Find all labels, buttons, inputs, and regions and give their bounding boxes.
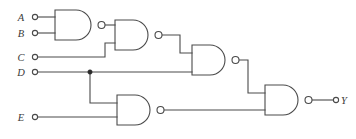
junction-dot-d: [88, 70, 92, 74]
input-terminal-group: [32, 14, 37, 119]
gate-g5-body: [265, 85, 298, 115]
circuit-canvas: A B C D E Y: [0, 0, 356, 139]
gate-g3-body: [192, 45, 225, 75]
gate-g5-inversion-bubble-icon: [305, 97, 312, 104]
input-label-c: C: [17, 52, 25, 63]
gate-g1-inversion-bubble-icon: [98, 22, 105, 29]
input-label-e: E: [17, 112, 25, 123]
wire-gate2-output: [162, 35, 192, 53]
input-label-d: D: [16, 67, 25, 78]
gate-g2-body: [115, 20, 148, 50]
gate-g4-inversion-bubble-icon: [157, 107, 164, 114]
label-group: A B C D E Y: [16, 12, 348, 123]
input-terminal-c[interactable]: [32, 54, 37, 59]
gate-g2-nand[interactable]: [115, 20, 162, 50]
logic-circuit-diagram: A B C D E Y: [0, 0, 356, 139]
wire-group: [38, 17, 334, 117]
gate-g5-nand[interactable]: [265, 85, 312, 115]
gate-g3-nand[interactable]: [192, 45, 239, 75]
gate-g4-body: [117, 95, 150, 125]
output-terminal-y[interactable]: [333, 97, 338, 102]
gate-g1-body: [55, 10, 91, 40]
input-terminal-d[interactable]: [32, 69, 37, 74]
input-label-b: B: [18, 28, 25, 39]
gate-g3-inversion-bubble-icon: [232, 57, 239, 64]
output-label-y: Y: [341, 95, 348, 106]
wire-gate3-output: [239, 60, 265, 93]
input-terminal-b[interactable]: [32, 30, 37, 35]
wire-d-branch: [90, 72, 117, 103]
gate-g1-nand[interactable]: [55, 10, 105, 40]
input-terminal-a[interactable]: [32, 14, 37, 19]
gate-g2-inversion-bubble-icon: [155, 32, 162, 39]
wire-c-input: [38, 43, 115, 57]
input-label-a: A: [17, 12, 25, 23]
input-terminal-e[interactable]: [32, 114, 37, 119]
gate-g4-nand[interactable]: [117, 95, 164, 125]
